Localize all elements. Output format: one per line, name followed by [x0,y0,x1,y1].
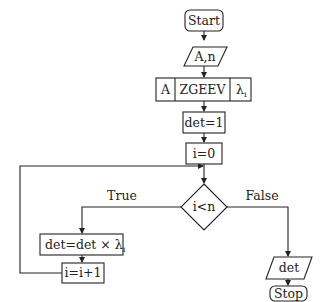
edge-loop-back [20,166,203,273]
i-init-label: i=0 [193,146,215,161]
zgeev-left-label: A [160,82,171,97]
stop-label: Stop [274,286,303,301]
output-label: det [279,260,299,275]
input-node: A,n [184,47,227,66]
i-init-node: i=0 [186,143,222,164]
zgeev-node: A ZGEEV λi [156,78,251,101]
false-label: False [245,188,278,203]
start-node: Start [185,10,223,31]
stop-node: Stop [270,286,307,301]
edge-false [227,207,288,256]
zgeev-center-label: ZGEEV [180,82,227,97]
output-node: det [266,257,312,279]
condition-node: i<n [181,184,227,230]
det-init-label: det=1 [185,115,224,130]
det-update-label: det=det × λi [45,237,126,254]
det-update-node: det=det × λi [40,234,126,255]
condition-label: i<n [193,199,216,214]
i-inc-label: i=i+1 [65,265,102,280]
i-inc-node: i=i+1 [62,263,104,283]
edge-true [82,207,181,233]
input-label: A,n [193,49,215,64]
flowchart: Start A,n A ZGEEV λi det=1 i=0 i<n True … [0,0,327,302]
true-label: True [107,188,137,203]
det-init-node: det=1 [183,112,225,133]
start-label: Start [188,13,220,28]
